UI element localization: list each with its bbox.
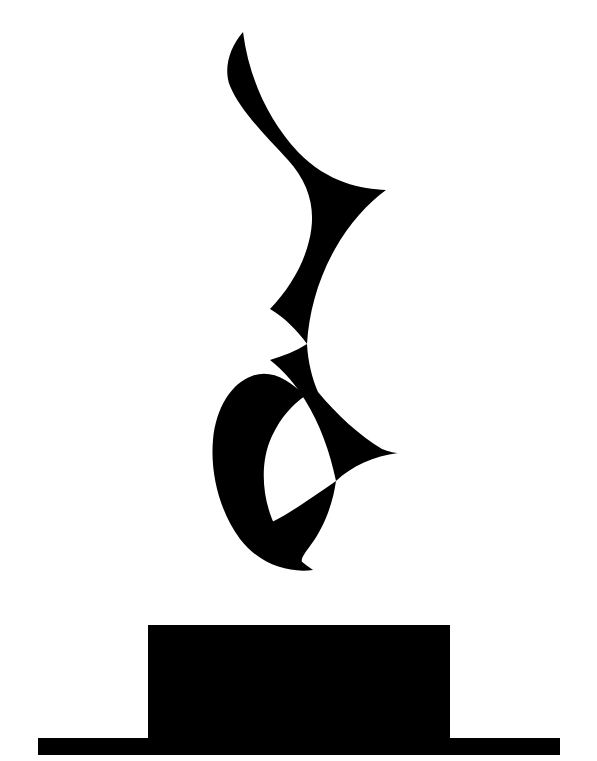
image-canvas: Black Flourish Ornament On Pedestal High… [0,0,597,761]
pedestal-column [148,625,450,738]
silhouette-artwork [0,0,597,761]
pedestal-base [38,738,560,755]
